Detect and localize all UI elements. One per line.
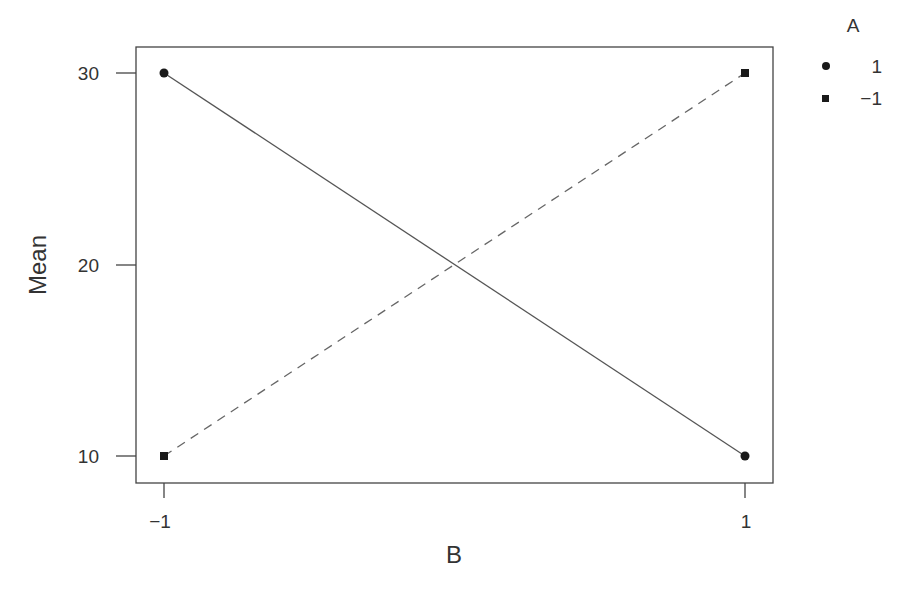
- legend-title: A: [847, 15, 860, 36]
- y-axis: 30 20 10 Mean: [24, 63, 136, 467]
- x-axis-title: B: [446, 541, 462, 568]
- y-tick-label: 10: [78, 446, 99, 467]
- x-tick-label: −1: [149, 511, 171, 532]
- y-tick-label: 30: [78, 63, 99, 84]
- y-axis-title: Mean: [24, 235, 51, 295]
- legend-circle-icon: [822, 62, 830, 70]
- y-tick-label: 20: [78, 255, 99, 276]
- legend: A 1 −1: [822, 15, 882, 109]
- x-axis: −1 1 B: [149, 483, 751, 568]
- circle-marker: [741, 452, 750, 461]
- series-a-1: [160, 69, 750, 461]
- legend-label: −1: [860, 88, 882, 109]
- legend-label: 1: [871, 56, 882, 77]
- square-marker: [741, 69, 749, 77]
- square-marker: [160, 452, 168, 460]
- x-tick-label: 1: [741, 511, 752, 532]
- legend-square-icon: [822, 95, 829, 102]
- circle-marker: [160, 69, 169, 78]
- interaction-plot: 30 20 10 Mean −1 1 B A 1 −1: [0, 0, 906, 597]
